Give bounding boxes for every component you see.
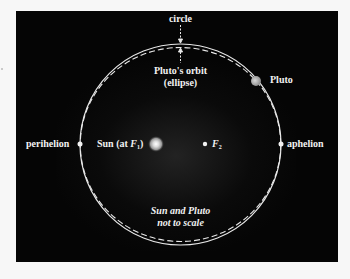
f2-focus-dot-icon bbox=[203, 142, 207, 146]
aphelion-dot-icon bbox=[279, 142, 284, 147]
scale-note-line1: Sun and Pluto bbox=[151, 205, 210, 216]
sun-icon bbox=[148, 136, 164, 152]
f2-label: F2 bbox=[212, 138, 222, 153]
circle-label: circle bbox=[169, 13, 192, 24]
perihelion-dot-icon bbox=[78, 142, 83, 147]
circle-arrow-icon bbox=[179, 25, 183, 43]
orbit-label-line1: Pluto's orbit bbox=[154, 65, 207, 76]
pluto-label: Pluto bbox=[270, 74, 293, 85]
f2-symbol: F bbox=[212, 138, 219, 149]
stray-dot bbox=[1, 68, 3, 70]
f2-subscript: 2 bbox=[219, 144, 222, 150]
sun-label-prefix: Sun (at bbox=[97, 138, 130, 149]
pluto-planet-icon bbox=[251, 76, 261, 86]
orbit-label-line2: (ellipse) bbox=[164, 77, 197, 88]
sun-label-suffix: ) bbox=[140, 138, 143, 149]
scale-note-line2: not to scale bbox=[157, 217, 204, 228]
sun-label: Sun (at F1) bbox=[97, 138, 143, 153]
diagram-panel: circle Pluto's orbit (ellipse) Pluto per… bbox=[16, 11, 338, 262]
ellipse-arrow-icon bbox=[179, 48, 183, 63]
aphelion-label: aphelion bbox=[287, 138, 324, 149]
perihelion-label: perihelion bbox=[26, 138, 69, 149]
